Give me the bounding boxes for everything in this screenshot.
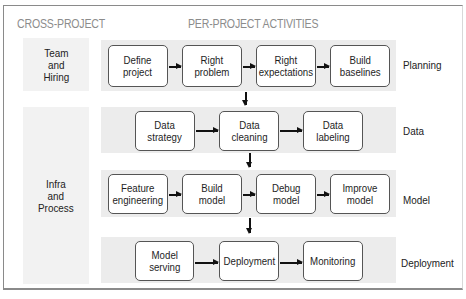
arrow-right-icon: [317, 194, 329, 196]
step-label: Feature engineering: [113, 182, 164, 206]
arrow-right-icon: [243, 194, 255, 196]
cross-project-team-hiring: Team and Hiring: [23, 38, 89, 91]
step-label: Build baselines: [340, 54, 381, 78]
arrow-down-icon: [249, 218, 251, 233]
arrow-right-icon: [195, 262, 218, 264]
row-label-planning: Planning: [403, 59, 442, 71]
row-label-data: Data: [403, 125, 424, 137]
row-label-deployment: Deployment: [401, 257, 454, 269]
step-label: Debug model: [272, 182, 301, 206]
step-define-project: Define project: [108, 45, 168, 87]
step-improve-model: Improve model: [330, 174, 390, 214]
step-label: Define project: [123, 54, 152, 78]
step-model-serving: Model serving: [135, 241, 194, 281]
step-right-expectations: Right expectations: [256, 45, 316, 87]
step-build-baselines: Build baselines: [330, 45, 390, 87]
arrow-right-icon: [280, 262, 302, 264]
cross-project-infra-process: Infra and Process: [23, 107, 89, 284]
arrow-right-icon: [280, 130, 302, 132]
arrow-right-icon: [243, 66, 255, 68]
arrow-right-icon: [317, 66, 329, 68]
arrow-right-icon: [169, 194, 181, 196]
step-right-problem: Right problem: [182, 45, 242, 87]
arrow-right-icon: [196, 130, 218, 132]
infra-process-label: Infra and Process: [38, 178, 74, 214]
step-data-strategy: Data strategy: [135, 111, 195, 151]
row-label-model: Model: [403, 194, 430, 206]
step-label: Right expectations: [259, 54, 313, 78]
step-data-cleaning: Data cleaning: [219, 111, 279, 151]
step-label: Deployment: [223, 255, 275, 267]
step-data-labeling: Data labeling: [303, 111, 363, 151]
step-monitoring: Monitoring: [303, 241, 363, 281]
step-label: Data strategy: [148, 119, 182, 143]
step-label: Monitoring: [310, 255, 355, 267]
arrow-right-icon: [169, 66, 181, 68]
step-debug-model: Debug model: [256, 174, 316, 214]
arrow-down-icon: [249, 153, 251, 167]
step-deployment: Deployment: [219, 241, 279, 281]
step-label: Build model: [199, 182, 225, 206]
cross-project-header: CROSS-PROJECT: [17, 17, 105, 31]
arrow-down-icon: [245, 92, 247, 105]
step-label: Right problem: [195, 54, 230, 78]
step-label: Improve model: [343, 182, 378, 206]
step-label: Model serving: [149, 249, 180, 273]
team-hiring-label: Team and Hiring: [43, 47, 69, 83]
step-label: Data labeling: [316, 119, 349, 143]
step-label: Data cleaning: [231, 119, 267, 143]
step-build-model: Build model: [182, 174, 242, 214]
step-feature-engineering: Feature engineering: [108, 174, 168, 214]
per-project-header: PER-PROJECT ACTIVITIES: [188, 17, 318, 31]
